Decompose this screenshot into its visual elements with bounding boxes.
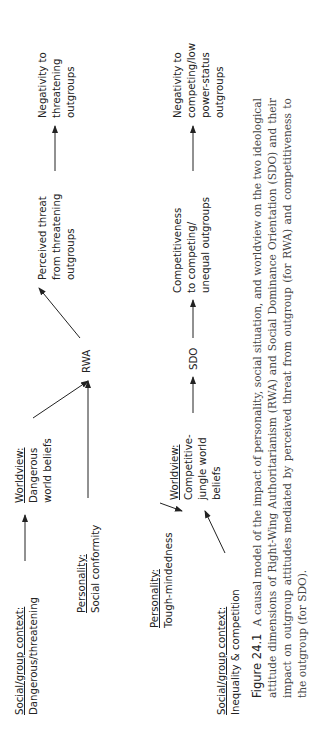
node-sdo: SDO (187, 348, 201, 370)
node-text-line: Tough-mindedness (162, 532, 176, 628)
node-competitiveness: Competitivenessto competing/unequal outg… (171, 197, 213, 293)
node-rwa: RWA (80, 350, 94, 373)
node-text-line: Negativity to (36, 52, 50, 118)
node-text-line: Dangerous (27, 438, 41, 503)
arrow-worldview-dangerous-to-rwa (33, 381, 88, 418)
node-heading: Personality: (75, 525, 89, 613)
node-negativity-competing: Negativity tocompeting/lowpower-statusou… (171, 43, 227, 118)
node-text-line: Competitive- (182, 434, 196, 500)
node-text-line: outgroups (64, 194, 78, 280)
node-text-line: from threatening (50, 194, 64, 280)
node-text-line: jungle world (196, 434, 210, 500)
node-text-line: outgroups (64, 52, 78, 118)
arrow-rwa-to-perceived-threat (39, 288, 80, 338)
node-text-line: Negativity to (171, 43, 185, 118)
node-personality-conformity: Personality:Social conformity (75, 525, 103, 613)
node-worldview-dangerous: Worldview:Dangerousworld beliefs (13, 438, 55, 503)
node-text-line: SDO (187, 348, 201, 370)
node-worldview-competitive: Worldview:Competitive-jungle worldbelief… (168, 434, 224, 500)
arrow-social-inequality-to-worldview-competitive (205, 511, 225, 553)
node-text-line: Social conformity (89, 525, 103, 613)
node-text-line: competing/low (185, 43, 199, 118)
node-text-line: unequal outgroups (199, 197, 213, 293)
node-text-line: Inequality & competition (229, 589, 243, 715)
node-heading: Personality: (148, 532, 162, 628)
node-text-line: RWA (80, 350, 94, 373)
node-text-line: outgroups (213, 43, 227, 118)
node-heading: Worldview: (168, 434, 182, 500)
arrow-personality-tough-to-worldview-competitive (160, 503, 182, 511)
figure-caption: Figure 24.1 A causal model of the impact… (250, 98, 310, 698)
figure-diagram: Social/group context:Dangerous/threateni… (0, 0, 322, 743)
node-text-line: threatening (50, 52, 64, 118)
node-text-line: Competitiveness (171, 197, 185, 293)
node-text-line: world beliefs (41, 438, 55, 503)
caption-text: A causal model of the impact of personal… (251, 98, 308, 698)
figure-label: Figure 24.1 (250, 634, 264, 698)
node-social-dangerous: Social/group context:Dangerous/threateni… (13, 597, 41, 715)
node-text-line: Dangerous/threatening (27, 597, 41, 715)
node-negativity-threatening: Negativity tothreateningoutgroups (36, 52, 78, 118)
node-social-inequality: Social/group context:Inequality & compet… (215, 589, 243, 715)
node-text-line: beliefs (210, 434, 224, 500)
node-text-line: power-status (199, 43, 213, 118)
node-heading: Social/group context: (13, 597, 27, 715)
node-text-line: Perceived threat (36, 194, 50, 280)
node-personality-tough: Personality:Tough-mindedness (148, 532, 176, 628)
node-heading: Worldview: (13, 438, 27, 503)
node-heading: Social/group context: (215, 589, 229, 715)
node-text-line: to competing/ (185, 197, 199, 293)
node-perceived-threat: Perceived threatfrom threateningoutgroup… (36, 194, 78, 280)
